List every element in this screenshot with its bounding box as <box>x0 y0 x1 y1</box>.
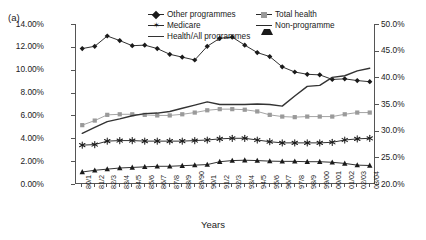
y-right-tick-label: 40.0% <box>381 72 405 82</box>
x-tickmark <box>256 184 257 187</box>
y-left-tickmark <box>71 138 75 139</box>
series-health-all-programmes <box>82 68 370 133</box>
y-right-tickmark <box>375 157 379 158</box>
data-point <box>180 55 185 60</box>
data-point <box>255 50 260 55</box>
x-tick-label: 96/7 <box>284 175 293 189</box>
y-right-tick-label: 45.0% <box>381 45 405 55</box>
x-tick-label: 86/7 <box>159 175 168 189</box>
x-tickmark <box>356 184 357 187</box>
x-tick-label: 00/01 <box>334 171 343 189</box>
data-point <box>218 107 222 111</box>
x-tickmark <box>319 184 320 187</box>
x-tickmark <box>94 184 95 187</box>
data-point <box>293 115 297 119</box>
x-tick-label: 02/03 <box>359 171 368 189</box>
legend-label: Other programmes <box>167 9 236 20</box>
x-tick-label: 85/6 <box>147 175 156 189</box>
data-point <box>230 35 235 40</box>
x-tickmark <box>106 184 107 187</box>
data-point <box>217 36 222 41</box>
x-tickmark <box>306 184 307 187</box>
x-tick-label: 99/00 <box>322 171 331 189</box>
data-point <box>268 113 272 117</box>
y-left-tick-label: 8.00% <box>20 87 44 97</box>
x-tickmark <box>219 184 220 187</box>
x-tickmark <box>181 184 182 187</box>
y-right-tick-label: 30.0% <box>381 125 405 135</box>
y-right-tick-label: 20.0% <box>381 179 405 189</box>
plot-area <box>75 24 375 184</box>
x-tickmark <box>144 184 145 187</box>
series-total-health <box>80 107 372 127</box>
data-point <box>130 43 135 48</box>
data-point <box>317 72 322 77</box>
figure-panel: (a) Other programmesTotal health✶Medicar… <box>0 0 426 240</box>
y-right-tick-label: 50.0% <box>381 19 405 29</box>
series-other-programmes <box>80 33 373 84</box>
y-left-tick-label: 0.00% <box>20 179 44 189</box>
data-point <box>330 114 334 118</box>
data-point <box>155 46 160 51</box>
x-tick-label: 81/2 <box>97 175 106 189</box>
x-tick-label: 90/1 <box>209 175 218 189</box>
data-point <box>180 112 184 116</box>
data-point <box>117 38 122 43</box>
data-point <box>80 46 85 51</box>
data-point <box>318 114 322 118</box>
diamond-marker-icon <box>148 10 164 19</box>
series-lines <box>76 24 376 184</box>
data-point <box>230 107 234 111</box>
x-tick-label: 03/04 <box>372 171 381 189</box>
data-point <box>167 52 172 57</box>
x-tick-label: 80/1 <box>84 175 93 189</box>
data-point <box>368 110 372 114</box>
data-point <box>193 110 197 114</box>
data-point <box>280 114 284 118</box>
series-medicare <box>80 135 373 148</box>
y-right-tick-label: 35.0% <box>381 99 405 109</box>
x-tick-label: 89/90 <box>197 171 206 189</box>
x-tick-label: 88/9 <box>184 175 193 189</box>
x-tickmark <box>244 184 245 187</box>
y-left-tickmark <box>71 24 75 25</box>
x-tick-label: 92/3 <box>234 175 243 189</box>
x-tickmark <box>269 184 270 187</box>
x-tick-label: 87/8 <box>172 175 181 189</box>
x-tickmark <box>281 184 282 187</box>
x-tickmark <box>156 184 157 187</box>
x-tickmark <box>369 184 370 187</box>
y-right-tickmark <box>375 51 379 52</box>
y-right-tick-label: 25.0% <box>381 152 405 162</box>
y-right-tickmark <box>375 131 379 132</box>
data-point <box>155 113 159 117</box>
x-tickmark <box>81 184 82 187</box>
x-tickmark <box>331 184 332 187</box>
data-point <box>367 79 372 84</box>
x-tickmark <box>119 184 120 187</box>
data-point <box>142 43 147 48</box>
x-tick-label: 94/5 <box>259 175 268 189</box>
data-point <box>305 72 310 77</box>
data-point <box>243 108 247 112</box>
legend-item-other-programmes: Other programmes <box>148 9 252 20</box>
y-left-tick-label: 12.00% <box>16 41 44 51</box>
data-point <box>205 108 209 112</box>
x-tickmark <box>206 184 207 187</box>
data-point <box>355 78 360 83</box>
data-point <box>105 113 109 117</box>
x-tickmark <box>169 184 170 187</box>
x-tickmark <box>231 184 232 187</box>
data-point <box>93 118 97 122</box>
square-marker-icon <box>256 10 272 19</box>
data-point <box>343 112 347 116</box>
x-tick-label: 01/02 <box>347 171 356 189</box>
x-tick-label: 97/8 <box>297 175 306 189</box>
x-tick-label: 84/5 <box>134 175 143 189</box>
y-left-tick-label: 14.00% <box>16 19 44 29</box>
y-left-tick-label: 6.00% <box>20 110 44 120</box>
legend-item-total-health: Total health <box>256 9 384 20</box>
data-point <box>80 123 84 127</box>
x-tick-label: 98/9 <box>309 175 318 189</box>
y-left-tickmark <box>71 47 75 48</box>
